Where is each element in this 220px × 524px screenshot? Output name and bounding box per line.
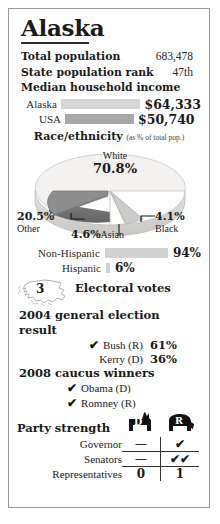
hispanic-origin-chart: Non-Hispanic 94% Hispanic 6% <box>17 246 201 275</box>
pie-label-other-value: 20.5% <box>17 210 54 223</box>
electoral-votes-section: 3 Electoral votes <box>9 278 209 308</box>
hispanic-label-non-hispanic: Non-Hispanic <box>17 247 105 259</box>
race-ethnicity-title: Race/ethnicity <box>34 130 123 143</box>
hispanic-row-hispanic: Hispanic 6% <box>17 261 201 275</box>
hispanic-label-hispanic: Hispanic <box>17 262 106 274</box>
party-row-label-governor: Governor <box>17 437 122 452</box>
title-underline <box>21 42 89 44</box>
stat-value-population-rank: 47th <box>173 65 199 79</box>
party-strength-heading: Party strength <box>17 421 123 437</box>
hispanic-row-non-hispanic: Non-Hispanic 94% <box>17 246 201 260</box>
top-stats: Total population 683,478 State populatio… <box>21 49 199 95</box>
caucus-2008-heading: 2008 caucus winners <box>19 366 199 381</box>
pie-label-white-name: White <box>103 150 127 161</box>
pie-label-other-name: Other <box>17 223 40 234</box>
stat-label-population-rank: State population rank <box>21 66 154 80</box>
stat-label-total-population: Total population <box>21 50 120 64</box>
median-income-heading: Median household income <box>21 81 199 95</box>
income-label-usa: USA <box>17 113 65 125</box>
race-ethnicity-note: (as % of total pop.) <box>126 133 184 142</box>
table-row: Senators — ✔✔ <box>17 452 199 467</box>
party-strength-section: Party strength D R Governor — ✔ <box>17 413 199 481</box>
party-row-label-senators: Senators <box>17 452 122 467</box>
stat-row: Total population 683,478 <box>21 49 199 64</box>
race-ethnicity-pie-chart: White 70.8% 20.5% Other 4.6%Asian 4.1% B… <box>9 144 209 244</box>
party-strength-table: Governor — ✔ Senators — ✔✔ Representativ… <box>17 437 199 481</box>
caucus-2008-name-romney: Romney (R) <box>81 396 136 411</box>
caucus-2008-section: 2008 caucus winners ✔ Obama (D) ✔ Romney… <box>19 366 199 411</box>
winner-check-icon: ✔ <box>67 396 81 411</box>
caucus-2008-row-romney: ✔ Romney (R) <box>19 396 199 411</box>
income-row-usa: USA $50,740 <box>17 112 201 126</box>
pie-label-asian-name: Asian <box>101 229 124 240</box>
election-2004-row-bush: ✔ Bush (R) 61% <box>19 338 199 352</box>
election-2004-name-bush: Bush (R) <box>103 338 143 352</box>
election-2004-pct-bush: 61% <box>143 338 177 352</box>
income-row-alaska: Alaska $64,333 <box>17 97 201 111</box>
elephant-republican-icon: R <box>161 411 199 437</box>
state-fact-card: Alaska Total population 683,478 State po… <box>8 8 210 508</box>
table-row: Representatives 0 1 <box>17 467 199 482</box>
hispanic-value-non-hispanic: 94% <box>168 246 201 260</box>
party-cell-representatives-r: 1 <box>161 467 200 482</box>
pie-label-black-value: 4.1% <box>155 210 185 223</box>
svg-text:D: D <box>134 416 142 427</box>
svg-text:R: R <box>175 415 183 426</box>
party-strength-header: Party strength D R <box>17 413 199 437</box>
median-income-chart: Alaska $64,333 USA $50,740 <box>17 97 201 126</box>
party-cell-senators-r: ✔✔ <box>161 452 200 467</box>
election-2004-name-kerry: Kerry (D) <box>99 352 143 366</box>
party-cell-senators-d: — <box>122 452 161 467</box>
pie-label-asian-value: 4.6% <box>71 228 101 241</box>
winner-check-icon: ✔ <box>89 338 103 352</box>
alaska-state-outline-icon <box>17 276 77 308</box>
income-bar-alaska <box>61 99 141 109</box>
page-title: Alaska <box>21 15 209 41</box>
electoral-votes-label: Electoral votes <box>75 281 171 295</box>
stat-row: State population rank 47th <box>21 65 199 80</box>
caucus-2008-name-obama: Obama (D) <box>81 381 131 396</box>
electoral-votes-count: 3 <box>36 282 44 296</box>
election-2004-row-kerry: Kerry (D) 36% <box>19 352 199 366</box>
income-value-usa: $50,740 <box>134 112 195 127</box>
hispanic-bar-non-hispanic <box>105 248 168 258</box>
election-2004-section: 2004 general election result ✔ Bush (R) … <box>19 308 199 366</box>
income-bar-usa <box>65 114 134 124</box>
income-label-alaska: Alaska <box>17 98 61 110</box>
race-ethnicity-heading: Race/ethnicity (as % of total pop.) <box>9 130 209 143</box>
party-row-label-representatives: Representatives <box>17 467 122 482</box>
pie-label-other: 20.5% Other <box>17 210 54 234</box>
hispanic-value-hispanic: 6% <box>110 261 135 275</box>
party-cell-representatives-d: 0 <box>122 467 161 482</box>
party-cell-governor-d: — <box>122 437 161 452</box>
pie-label-asian: 4.6%Asian <box>71 228 124 241</box>
pie-label-black-name: Black <box>155 223 178 234</box>
election-2004-heading: 2004 general election result <box>19 308 199 338</box>
table-row: Governor — ✔ <box>17 437 199 452</box>
pie-label-white-value: 70.8% <box>93 161 137 176</box>
winner-check-icon: ✔ <box>67 381 81 396</box>
donkey-democrat-icon: D <box>123 411 161 437</box>
pie-label-white: White 70.8% <box>93 150 137 176</box>
pie-label-black: 4.1% Black <box>155 210 185 234</box>
election-2004-pct-kerry: 36% <box>143 352 177 366</box>
stat-value-total-population: 683,478 <box>156 49 199 63</box>
caucus-2008-row-obama: ✔ Obama (D) <box>19 381 199 396</box>
income-value-alaska: $64,333 <box>140 97 201 112</box>
party-cell-governor-r: ✔ <box>161 437 200 452</box>
